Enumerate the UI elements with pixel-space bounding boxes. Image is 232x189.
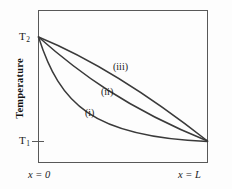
y-axis-title: Temperature: [14, 34, 25, 144]
t1-subscript: 1: [26, 139, 30, 148]
curve-label-ii: (ii): [101, 86, 113, 97]
curve-label-i: (i): [85, 107, 94, 118]
x-axis-end-label: x = L: [178, 169, 201, 180]
temperature-profile-figure: T2 T1 Temperature x = 0 x = L (iii) (ii)…: [0, 0, 232, 189]
x-axis-start-label: x = 0: [28, 169, 50, 180]
plot-frame: [38, 10, 208, 163]
curve-label-iii: (iii): [113, 61, 128, 72]
y-tick-t1: [32, 141, 44, 142]
t2-subscript: 2: [26, 35, 30, 44]
